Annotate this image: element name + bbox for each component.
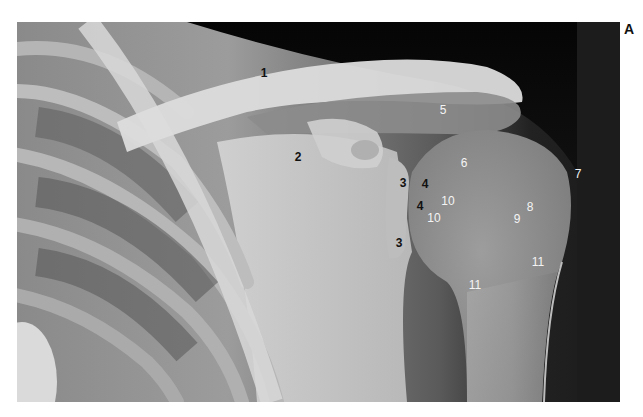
anatomy-label-10b: 10 [427,212,440,224]
anatomy-label-9: 9 [514,213,521,225]
anatomy-label-5: 5 [440,104,447,116]
anatomy-label-3b: 3 [396,237,403,249]
anatomy-label-11b: 11 [469,279,481,291]
panel-letter: A [624,21,634,37]
anatomy-label-7: 7 [575,168,582,180]
anatomy-label-3a: 3 [400,177,407,189]
anatomy-label-11a: 11 [532,256,544,268]
anatomy-label-6: 6 [461,157,468,169]
anatomy-label-10a: 10 [441,195,454,207]
anatomy-label-4a: 4 [422,178,429,190]
anatomy-label-8: 8 [527,201,534,213]
anatomy-label-2: 2 [295,151,302,163]
anatomy-label-4b: 4 [417,200,424,212]
anatomy-label-1: 1 [261,67,268,79]
